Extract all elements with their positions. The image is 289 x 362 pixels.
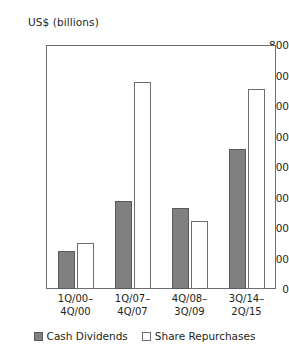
legend-swatch-cash-dividends — [34, 332, 43, 341]
x-axis-label-line: 3Q/09 — [161, 306, 218, 319]
bar-cash-dividends — [115, 201, 132, 289]
x-axis-label-line: 3Q/14– — [218, 293, 275, 306]
x-axis-label: 3Q/14–2Q/15 — [218, 293, 275, 318]
x-axis-label-line: 4Q/07 — [104, 306, 161, 319]
bar-chart: US$ (billions) 0100200300400500600700800… — [0, 0, 289, 362]
x-axis-label: 4Q/08–3Q/09 — [161, 293, 218, 318]
chart-legend: Cash DividendsShare Repurchases — [0, 330, 289, 342]
legend-swatch-share-repurchases — [142, 332, 151, 341]
bar-group — [104, 46, 161, 289]
bar-cash-dividends — [172, 208, 189, 289]
y-axis-title: US$ (billions) — [28, 16, 99, 28]
bar-group — [47, 46, 104, 289]
x-axis-label-line: 4Q/00 — [47, 306, 104, 319]
bar-share-repurchases — [191, 221, 208, 289]
legend-item: Cash Dividends — [34, 330, 128, 342]
x-axis-label-line: 1Q/00– — [47, 293, 104, 306]
bar-group — [161, 46, 218, 289]
x-axis-labels: 1Q/00–4Q/001Q/07–4Q/074Q/08–3Q/093Q/14–2… — [47, 293, 275, 318]
x-axis-label: 1Q/00–4Q/00 — [47, 293, 104, 318]
bar-share-repurchases — [134, 82, 151, 289]
legend-label: Cash Dividends — [47, 330, 128, 342]
x-axis-label-line: 1Q/07– — [104, 293, 161, 306]
bar-share-repurchases — [248, 89, 265, 289]
x-axis-label-line: 2Q/15 — [218, 306, 275, 319]
bar-cash-dividends — [58, 251, 75, 289]
x-axis-label: 1Q/07–4Q/07 — [104, 293, 161, 318]
legend-label: Share Repurchases — [155, 330, 256, 342]
bar-share-repurchases — [77, 243, 94, 289]
x-axis-label-line: 4Q/08– — [161, 293, 218, 306]
bar-groups — [47, 46, 275, 289]
bar-group — [218, 46, 275, 289]
bar-cash-dividends — [229, 149, 246, 289]
legend-item: Share Repurchases — [142, 330, 256, 342]
